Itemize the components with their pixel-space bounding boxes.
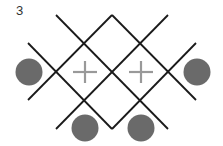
circle-marker-right bbox=[184, 59, 211, 86]
plus-icon bbox=[129, 61, 153, 83]
plus-icon bbox=[73, 61, 97, 83]
lattice-diagram bbox=[0, 0, 223, 146]
circle-marker-bottom-right bbox=[128, 115, 155, 142]
circle-marker-bottom-left bbox=[72, 115, 99, 142]
lattice-lines bbox=[28, 15, 196, 129]
circle-marker-left bbox=[16, 59, 43, 86]
